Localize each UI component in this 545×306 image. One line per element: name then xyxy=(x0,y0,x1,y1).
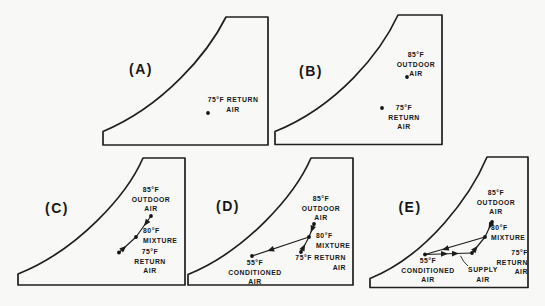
point-label-return-air-a: 75°F RETURN AIR xyxy=(208,95,259,114)
conditioning-line-e xyxy=(425,237,485,255)
point-label-return-air-c: 75°F RETURN AIR xyxy=(134,247,166,276)
point-label-supply-air-e: SUPPLY AIR xyxy=(468,265,498,284)
point-dot-outdoor-air-c xyxy=(149,214,153,218)
point-label-conditioned-air-d: 55°F CONDITIONED AIR xyxy=(228,258,282,287)
arrowhead xyxy=(442,245,450,250)
point-label-outdoor-air-e: 85°F OUTDOOR AIR xyxy=(477,188,516,217)
point-label-return-air-d: 75°F RETURN AIR xyxy=(295,253,346,272)
point-label-outdoor-air-b: 85°F OUTDOOR AIR xyxy=(397,50,436,79)
psychrometric-diagram-figure: (A) (B) (C) (D) (E) 75°F RETURN AIR 85°F… xyxy=(0,0,545,306)
point-dot-mixture-d xyxy=(307,235,311,239)
point-label-return-air-b: 75°F RETURN AIR xyxy=(388,103,420,132)
point-dot-return-air-b xyxy=(380,106,384,110)
panel-label-c: (C) xyxy=(45,200,69,216)
panel-label-e: (E) xyxy=(398,199,421,215)
panel-label-a: (A) xyxy=(129,61,153,77)
point-dot-return-air-e xyxy=(470,251,474,255)
point-label-conditioned-air-e: 55°F CONDITIONED AIR xyxy=(401,256,455,285)
point-dot-mixture-c xyxy=(134,235,138,239)
supply-leader-line xyxy=(461,256,469,266)
point-dot-return-air-c xyxy=(117,251,121,255)
panel-label-d: (D) xyxy=(216,198,240,214)
arrowhead xyxy=(144,219,150,226)
point-label-outdoor-air-c: 85°F OUTDOOR AIR xyxy=(132,185,171,214)
chart-outline-a xyxy=(103,17,268,145)
arrowhead xyxy=(267,246,275,251)
point-dot-mixture-e xyxy=(483,235,487,239)
point-label-outdoor-air-d: 85°F OUTDOOR AIR xyxy=(302,194,341,223)
supply-line-e xyxy=(425,253,472,255)
point-label-mixture-e: 80°F MIXTURE xyxy=(491,223,525,242)
point-label-mixture-c: 80°F MIXTURE xyxy=(143,226,177,245)
point-dot-outdoor-air-d xyxy=(312,222,316,226)
point-label-mixture-d: 80°F MIXTURE xyxy=(316,231,350,250)
point-label-return-air-e: 75°F RETURN AIR xyxy=(496,248,528,277)
panel-label-b: (B) xyxy=(299,63,323,79)
